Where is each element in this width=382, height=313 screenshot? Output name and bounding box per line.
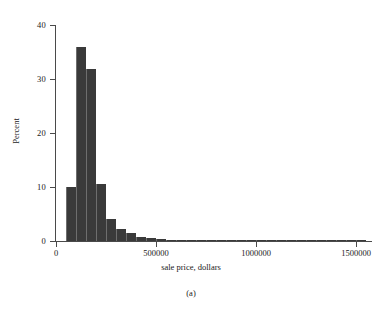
y-axis-tick-label: 20 [0, 129, 46, 138]
histogram-bar [96, 184, 106, 241]
histogram-bar [136, 237, 146, 241]
y-axis-tick [50, 79, 55, 80]
x-axis-tick-label: 0 [54, 249, 58, 258]
figure-caption: (a) [0, 288, 382, 298]
histogram-bar [316, 240, 326, 241]
histogram-figure: 010203040 050000010000001500000 Percent … [0, 0, 382, 313]
histogram-bar [286, 240, 296, 241]
histogram-bar [156, 239, 166, 241]
x-axis-tick [56, 242, 57, 247]
x-axis-tick-label: 1000000 [241, 249, 271, 258]
histogram-bar [306, 240, 316, 241]
x-axis-tick-label: 1500000 [341, 249, 371, 258]
histogram-bar [76, 47, 86, 241]
histogram-bar [346, 240, 356, 241]
y-axis-tick-label: 30 [0, 75, 46, 84]
x-axis-line [55, 241, 372, 242]
histogram-bar [246, 240, 256, 241]
histogram-bar [116, 229, 126, 241]
histogram-bar [196, 240, 206, 241]
histogram-bar [66, 187, 76, 241]
histogram-bar [176, 240, 186, 241]
y-axis-tick [50, 25, 55, 26]
histogram-bar [216, 240, 226, 241]
y-axis-tick-label: 0 [0, 237, 46, 246]
histogram-bar [356, 240, 366, 241]
y-axis-tick-label: 10 [0, 183, 46, 192]
histogram-bar [326, 240, 336, 241]
histogram-bar [206, 240, 216, 241]
histogram-bar [126, 233, 136, 241]
x-axis-tick-label: 500000 [143, 249, 169, 258]
histogram-bar [276, 240, 286, 241]
histogram-bar [266, 240, 276, 241]
histogram-bar [186, 240, 196, 241]
x-axis-tick [156, 242, 157, 247]
x-axis-label: sale price, dollars [0, 262, 382, 272]
y-axis-tick-label: 40 [0, 21, 46, 30]
histogram-bar [336, 240, 346, 241]
histogram-bar [256, 240, 266, 241]
histogram-bar [236, 240, 246, 241]
y-axis-tick [50, 241, 55, 242]
histogram-bar [296, 240, 306, 241]
histogram-bar [146, 238, 156, 241]
histogram-bars [56, 25, 372, 241]
y-axis-label: Percent [11, 101, 21, 161]
x-axis-tick [356, 242, 357, 247]
histogram-bar [86, 69, 96, 241]
histogram-bar [106, 219, 116, 241]
histogram-bar [226, 240, 236, 241]
y-axis-tick [50, 133, 55, 134]
histogram-bar [166, 240, 176, 241]
y-axis-tick [50, 187, 55, 188]
x-axis-tick [256, 242, 257, 247]
